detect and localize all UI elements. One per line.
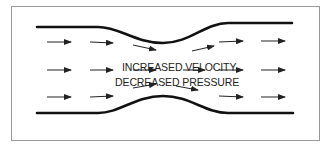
arrow-icon [192,46,214,51]
bottom-wall [37,96,293,113]
arrow-icon [219,96,243,97]
arrow-icon [133,45,156,50]
decreased-pressure-label: DECREASED PRESSURE [115,76,239,88]
arrow-icon [219,41,243,42]
increased-velocity-label: INCREASED VELOCITY [122,61,236,73]
arrow-icon [90,96,113,97]
arrow-icon [90,42,113,43]
top-wall [37,23,292,43]
